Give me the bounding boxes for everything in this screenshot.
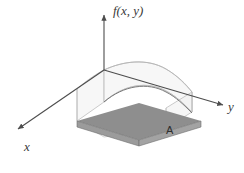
- figure-canvas: f(x, y) y x A: [0, 0, 244, 173]
- axis-label-f: f(x, y): [113, 3, 143, 19]
- surface-wall-left: [77, 70, 104, 121]
- three-d-sketch: [0, 0, 244, 173]
- region-label-A: A: [166, 124, 173, 136]
- axis-label-x: x: [24, 139, 30, 155]
- axis-label-y: y: [228, 99, 234, 115]
